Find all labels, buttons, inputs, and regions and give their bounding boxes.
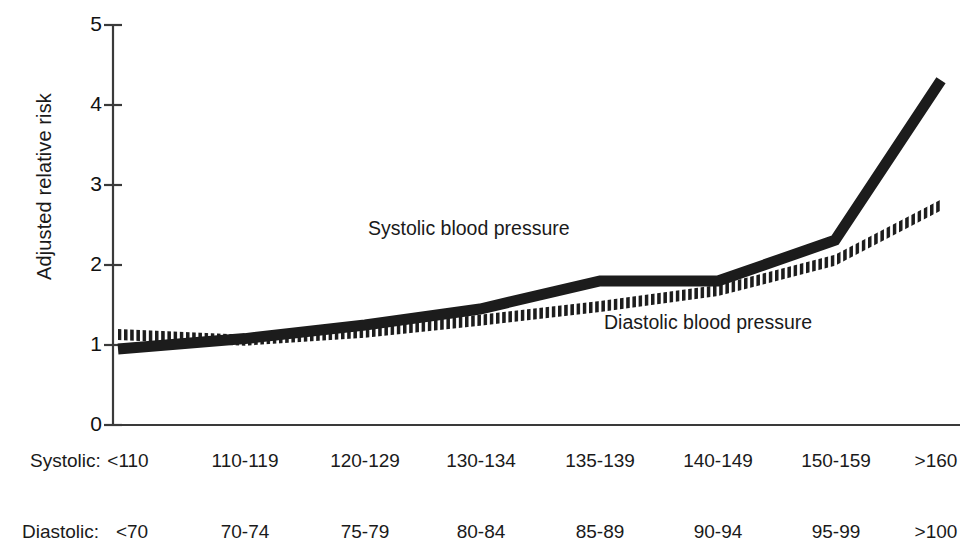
category-cell-diastolic-6: 90-94 (694, 521, 743, 538)
series-systolic-blood-pressure (118, 80, 941, 349)
category-cell-diastolic-7: 95-99 (812, 521, 861, 538)
category-cell-diastolic-8: >100 (915, 521, 958, 538)
category-cell-systolic-4: 130-134 (446, 450, 516, 472)
category-cell-systolic-1: <110 (107, 450, 148, 472)
category-cell-systolic-6: 140-149 (683, 450, 753, 472)
category-cell-diastolic-1: <70 (116, 521, 148, 538)
category-cell-diastolic-4: 80-84 (457, 521, 506, 538)
category-row-label-diastolic: Diastolic: (22, 521, 99, 538)
chart-figure: Adjusted relative risk 5 4 3 2 1 0 (0, 0, 973, 538)
category-cell-systolic-5: 135-139 (565, 450, 635, 472)
category-cell-systolic-2: 110-119 (212, 450, 279, 472)
category-row-diastolic: Diastolic: <70 70-74 75-79 80-84 85-89 9… (0, 515, 973, 538)
category-cell-systolic-7: 150-159 (801, 450, 871, 472)
annotation-diastolic-blood-pressure: Diastolic blood pressure (604, 311, 812, 334)
category-cell-systolic-8: >160 (915, 450, 958, 472)
category-cell-diastolic-3: 75-79 (341, 521, 390, 538)
category-cell-diastolic-5: 85-89 (576, 521, 625, 538)
category-axis-table: Systolic: <110 110-119 120-129 130-134 1… (0, 444, 973, 538)
category-cell-systolic-3: 120-129 (330, 450, 400, 472)
annotation-systolic-blood-pressure: Systolic blood pressure (368, 217, 570, 240)
category-cell-diastolic-2: 70-74 (221, 521, 270, 538)
category-row-label-systolic: Systolic: (30, 450, 101, 472)
category-row-systolic: Systolic: <110 110-119 120-129 130-134 1… (0, 444, 973, 489)
